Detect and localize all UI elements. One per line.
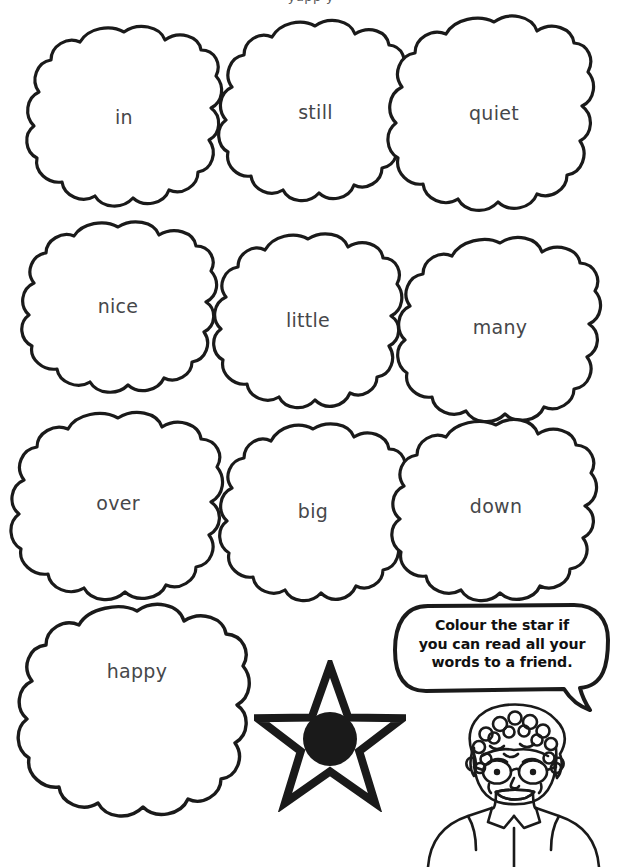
cloud-shape	[20, 602, 254, 834]
cloud-shape	[218, 422, 408, 600]
character-illustration	[416, 700, 611, 867]
child-with-glasses-icon	[416, 700, 611, 867]
cloud-shape	[26, 24, 222, 210]
word-cloud-in[interactable]: in	[26, 24, 222, 210]
page-title-clipped: yapp y	[0, 0, 622, 5]
word-cloud-nice[interactable]: nice	[18, 220, 218, 392]
word-cloud-many[interactable]: many	[399, 236, 601, 418]
word-cloud-quiet[interactable]: quiet	[394, 14, 594, 211]
cloud-shape	[213, 232, 403, 407]
cloud-shape	[399, 236, 601, 418]
cloud-shape	[223, 18, 408, 206]
speech-bubble-shape	[392, 602, 614, 714]
word-cloud-big[interactable]: big	[218, 422, 408, 600]
word-cloud-over[interactable]: over	[10, 410, 226, 596]
speech-bubble: Colour the star if you can read all your…	[392, 602, 614, 714]
cloud-shape	[10, 410, 226, 596]
word-cloud-little[interactable]: little	[213, 232, 403, 407]
cloud-shape	[394, 14, 594, 211]
cloud-shape	[392, 418, 600, 594]
word-cloud-down[interactable]: down	[392, 418, 600, 594]
star-center-dot	[303, 712, 357, 766]
word-cloud-still[interactable]: still	[223, 18, 408, 206]
reward-star[interactable]	[254, 660, 406, 812]
star-icon	[254, 660, 406, 812]
worksheet-page: yapp y in still quiet nice little	[0, 0, 622, 867]
cloud-shape	[18, 220, 218, 392]
word-cloud-happy[interactable]: happy	[20, 602, 254, 834]
